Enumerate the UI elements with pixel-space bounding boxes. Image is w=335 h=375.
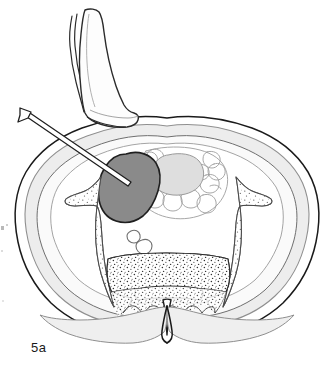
needle-hub bbox=[18, 108, 31, 122]
page-edge-marks bbox=[1, 224, 8, 302]
ivc-vessel bbox=[136, 239, 152, 254]
figure-caption-label: 5a bbox=[31, 340, 46, 355]
figure-container: 5a bbox=[0, 0, 335, 375]
anatomy-cross-section-illustration bbox=[0, 0, 335, 375]
ultrasound-transducer bbox=[70, 9, 139, 127]
